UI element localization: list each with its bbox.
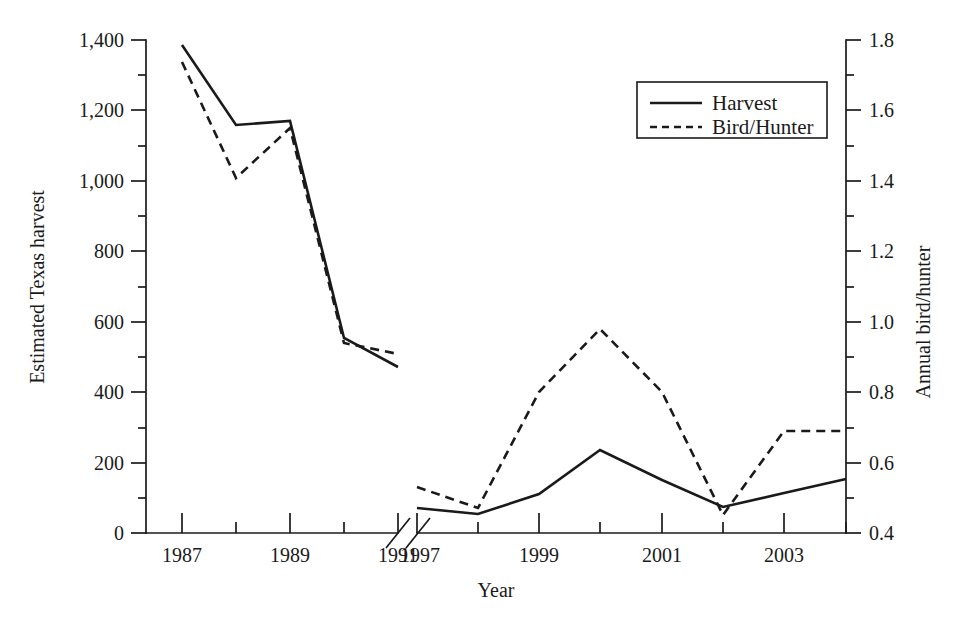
- x-tick-label-1987: 1987: [162, 544, 202, 566]
- left-y-axis-title: Estimated Texas harvest: [26, 190, 48, 384]
- left-y-tick-label-600: 600: [94, 311, 124, 333]
- right-y-tick-label-0-4: 0.4: [869, 522, 894, 544]
- series-harvest-panel-1997-2004: [417, 450, 846, 514]
- x-axis-title: Year: [478, 579, 515, 601]
- right-y-tick-label-1-6: 1.6: [869, 99, 894, 121]
- left-y-tick-label-200: 200: [94, 452, 124, 474]
- x-tick-label-2001: 2001: [642, 544, 682, 566]
- right-y-tick-label-0-8: 0.8: [869, 381, 894, 403]
- right-y-axis-title: Annual bird/hunter: [912, 245, 934, 398]
- series-harvest-panel-1987-1991: [182, 45, 398, 367]
- left-y-tick-label-800: 800: [94, 240, 124, 262]
- dual-panel-line-chart: 1,400 1,200 1,000 800 600 400 200 0 Esti…: [0, 0, 967, 627]
- series-bird-hunter-panel-1997-2004: [417, 329, 846, 515]
- right-y-tick-label-1-8: 1.8: [869, 29, 894, 51]
- left-y-tick-label-400: 400: [94, 381, 124, 403]
- x-tick-label-1997: 1997: [400, 544, 440, 566]
- left-y-tick-label-1400: 1,400: [79, 29, 124, 51]
- legend-label-bird-hunter[interactable]: Bird/Hunter: [712, 115, 813, 139]
- right-y-tick-label-1-0: 1.0: [869, 311, 894, 333]
- right-y-tick-label-0-6: 0.6: [869, 452, 894, 474]
- left-y-tick-label-0: 0: [114, 522, 124, 544]
- right-y-tick-label-1-4: 1.4: [869, 170, 894, 192]
- right-y-axis: 1.8 1.6 1.4 1.2 1.0 0.8 0.6 0.4 Annual b…: [846, 29, 934, 544]
- left-y-axis: 1,400 1,200 1,000 800 600 400 200 0 Esti…: [26, 29, 146, 544]
- left-y-tick-label-1200: 1,200: [79, 99, 124, 121]
- legend[interactable]: Harvest Bird/Hunter: [637, 82, 827, 139]
- right-y-tick-label-1-2: 1.2: [869, 240, 894, 262]
- x-tick-label-1989: 1989: [270, 544, 310, 566]
- right-panel-x-axis: 1997 1999 2001 2003: [400, 513, 846, 566]
- x-tick-label-2003: 2003: [764, 544, 804, 566]
- left-panel-x-axis: 1987 1989 1991: [146, 513, 418, 566]
- left-y-tick-label-1000: 1,000: [79, 170, 124, 192]
- figure-container: 1,400 1,200 1,000 800 600 400 200 0 Esti…: [0, 0, 967, 627]
- series-bird-hunter-panel-1987-1991: [182, 62, 398, 354]
- legend-label-harvest[interactable]: Harvest: [712, 91, 777, 115]
- x-tick-label-1999: 1999: [519, 544, 559, 566]
